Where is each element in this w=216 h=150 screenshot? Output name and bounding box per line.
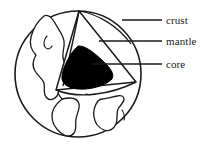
label-crust: crust xyxy=(166,15,188,26)
earth-cutaway-diagram: crust mantle core xyxy=(0,0,216,150)
label-core: core xyxy=(166,59,185,70)
label-mantle: mantle xyxy=(166,36,197,47)
